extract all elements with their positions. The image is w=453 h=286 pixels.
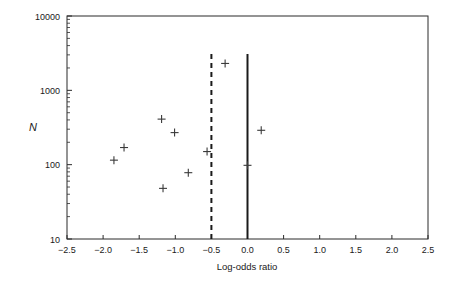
y-axis-label: N <box>29 121 37 133</box>
y-tick-label: 1000 <box>40 86 60 96</box>
x-tick-label: 1.5 <box>350 245 363 255</box>
y-tick-label: 10000 <box>35 12 60 22</box>
x-tick-label: 1.0 <box>313 245 326 255</box>
x-tick-label: 2.0 <box>386 245 399 255</box>
y-tick-label: 10 <box>50 235 60 245</box>
funnel-plot-figure: −2.5−2.0−1.5−1.0−0.50.00.51.01.52.02.5 1… <box>0 0 453 286</box>
x-axis-label: Log-odds ratio <box>217 261 278 272</box>
y-tick-label: 100 <box>45 160 60 170</box>
x-tick-label: −2.0 <box>94 245 112 255</box>
x-tick-label: −0.5 <box>203 245 221 255</box>
x-tick-label: −2.5 <box>58 245 76 255</box>
x-tick-label: −1.5 <box>130 245 148 255</box>
x-tick-label: −1.0 <box>166 245 184 255</box>
x-tick-label: 0.0 <box>241 245 254 255</box>
x-tick-label: 2.5 <box>422 245 435 255</box>
plot-background <box>0 0 453 286</box>
x-tick-label: 0.5 <box>277 245 290 255</box>
